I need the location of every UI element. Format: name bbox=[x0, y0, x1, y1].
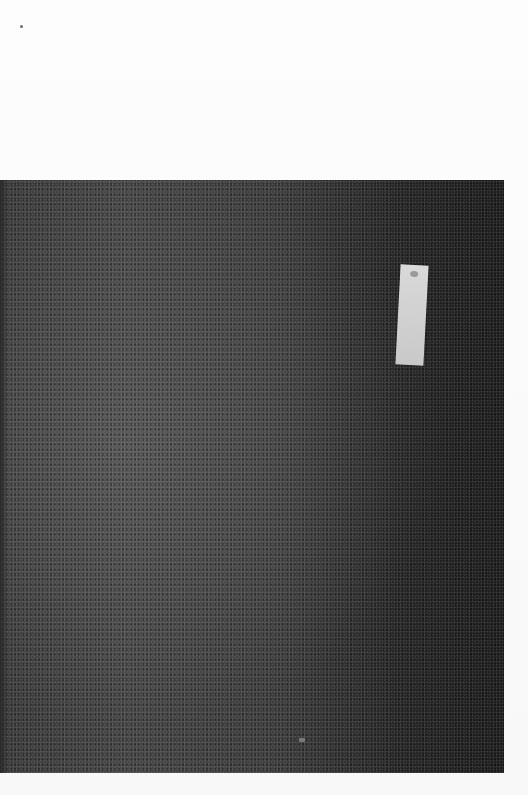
light-pebble bbox=[299, 738, 305, 742]
label-mark bbox=[410, 271, 418, 277]
dust-speck bbox=[20, 25, 23, 28]
photo-canvas bbox=[0, 0, 528, 795]
white-paper-label bbox=[395, 264, 428, 365]
surface-left-edge-shadow bbox=[0, 180, 8, 773]
